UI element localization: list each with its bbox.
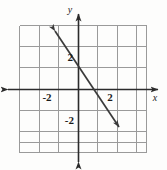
coordinate-plane-graph: -2 2 2 -2 y x <box>0 0 167 170</box>
x-tick-label-negative-2: -2 <box>42 91 52 103</box>
graph-screenshot: -2 2 2 -2 y x <box>0 0 167 170</box>
y-axis-label: y <box>67 4 73 15</box>
y-tick-label-negative-2: -2 <box>65 114 75 126</box>
y-tick-label-positive-2: 2 <box>68 51 74 63</box>
x-tick-label-positive-2: 2 <box>107 91 113 103</box>
x-axis-label: x <box>152 92 158 103</box>
